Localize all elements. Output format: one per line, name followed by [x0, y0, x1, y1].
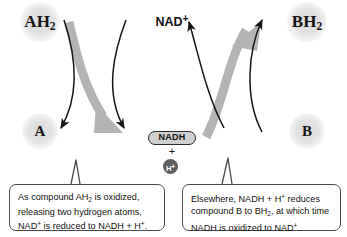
halo-bh2: [287, 2, 327, 42]
left-callout-tail: [71, 160, 80, 184]
right-gray-transfer-arrow: [206, 22, 261, 137]
node-label-nad-plus: NAD+: [135, 13, 209, 29]
reduction-callout-text: Elsewhere, NADH + H+ reduces compound B …: [183, 185, 340, 237]
left-gray-transfer-arrow: [69, 22, 123, 133]
plus-sign: +: [148, 146, 196, 157]
node-label-nadh: NADH: [148, 131, 196, 145]
oxidation-callout-text: As compound AH2 is oxidized, releasing t…: [10, 185, 164, 237]
right-callout-tail: [222, 158, 232, 184]
oxidation-callout: As compound AH2 is oxidized, releasing t…: [9, 184, 165, 231]
halo-ah2: [20, 2, 60, 42]
left-thin-arrow-up: [113, 20, 126, 128]
halo-b: [289, 113, 325, 149]
halo-a: [22, 113, 58, 149]
reduction-callout: Elsewhere, NADH + H+ reduces compound B …: [182, 184, 341, 231]
nad-redox-diagram: AH2 BH2 A B NAD+ NADH + H+ As compound A…: [0, 0, 347, 237]
node-label-h-plus: H+: [163, 159, 178, 174]
